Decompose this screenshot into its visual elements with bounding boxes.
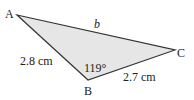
- vertex-c-label: C: [177, 46, 185, 60]
- side-bc-label: 2.7 cm: [123, 70, 156, 84]
- side-ac-label: b: [94, 17, 100, 31]
- triangle-diagram: A B C b 2.8 cm 2.7 cm 119°: [0, 0, 194, 100]
- vertex-b-label: B: [84, 84, 92, 98]
- angle-b-label: 119°: [84, 61, 107, 75]
- vertex-a-label: A: [5, 7, 14, 21]
- side-ab-label: 2.8 cm: [20, 54, 53, 68]
